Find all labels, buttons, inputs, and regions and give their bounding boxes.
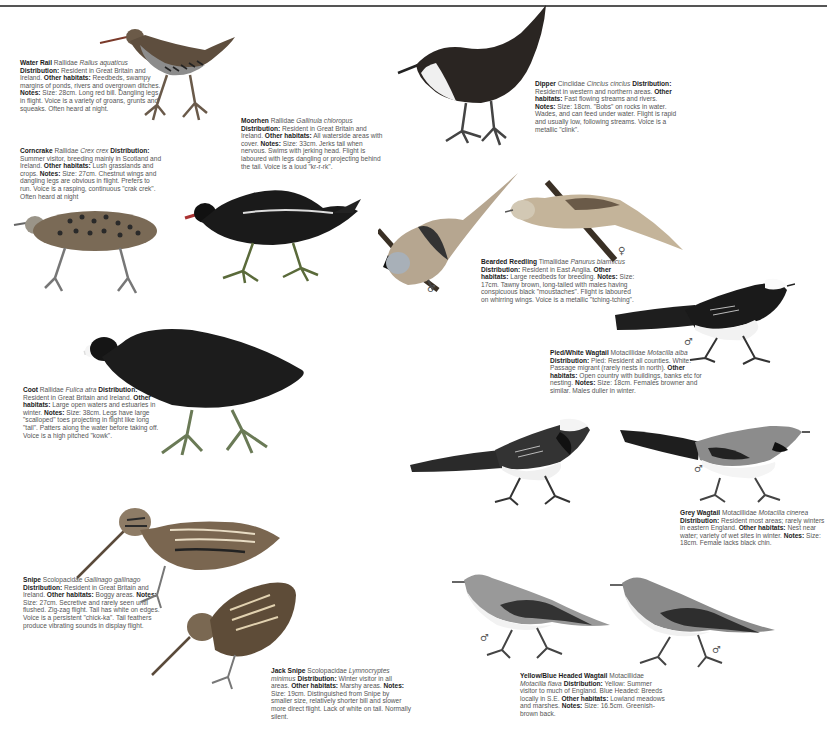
species-name: Coot (23, 386, 38, 393)
female-symbol: ♀ (618, 245, 625, 256)
species-name: Corncrake (20, 147, 53, 154)
entry-corncrake: Corncrake Rallidae Crex crex Distributio… (20, 147, 162, 200)
notes-label: Notes: (20, 89, 41, 96)
latin-name: Motacilla cinerea (759, 509, 808, 516)
corncrake-illustration (10, 203, 160, 303)
latin-name: Cinclus cinclus (587, 80, 631, 87)
latin-name: Motacilla flava (520, 680, 562, 687)
family-name: Scolopacidae (307, 667, 347, 674)
bearded-reedling-female-illustration (505, 180, 685, 270)
dipper-illustration (396, 3, 551, 153)
male-symbol: ♂ (427, 283, 436, 294)
distribution-label: Distribution: (241, 125, 280, 132)
family-name: Motacillidae (609, 672, 644, 679)
other-habitats-label: Other habitats: (44, 74, 91, 81)
species-name: Grey Wagtail (680, 509, 720, 516)
distribution-label: Distribution: (564, 680, 603, 687)
family-name: Rallidae (271, 117, 295, 124)
distribution-text: Resident in western and northern areas. (535, 88, 652, 95)
other-habitats-label: Other habitats: (739, 524, 786, 531)
pied-wagtail-female-illustration (410, 410, 595, 510)
jack-snipe-illustration (150, 575, 300, 690)
blue-headed-wagtail-illustration (610, 575, 775, 670)
other-habitats-label: Other habitats: (44, 162, 91, 169)
species-name: Pied/White Wagtail (550, 349, 609, 356)
male-symbol: ♂ (480, 632, 489, 643)
distribution-label: Distribution: (550, 357, 589, 364)
family-name: Rallidae (54, 147, 78, 154)
distribution-label: Distribution: (632, 80, 671, 87)
other-habitats-text: Fast flowing streams and rivers. (564, 95, 657, 102)
distribution-label: Distribution: (297, 675, 336, 682)
male-symbol: ♂ (712, 644, 721, 655)
entry-moorhen: Moorhen Rallidae Gallinula chloropus Dis… (241, 117, 386, 170)
notes-label: Notes: (562, 702, 583, 709)
family-name: Rallidae (40, 386, 64, 393)
family-name: Motacillidae (722, 509, 757, 516)
water-rail-illustration (95, 15, 240, 135)
species-name: Snipe (23, 576, 41, 583)
grey-wagtail-illustration (620, 420, 810, 505)
other-habitats-label: Other habitats: (561, 695, 608, 702)
distribution-label: Distribution: (680, 517, 719, 524)
species-name: Moorhen (241, 117, 269, 124)
species-name: Yellow/Blue Headed Wagtail (520, 672, 607, 679)
notes-label: Notes: (384, 682, 405, 689)
other-habitats-text: Marshy areas. (340, 682, 382, 689)
distribution-label: Distribution: (20, 67, 59, 74)
male-symbol: ♂ (694, 463, 703, 474)
family-name: Cinclidae (558, 80, 585, 87)
notes-label: Notes: (575, 379, 596, 386)
male-symbol: ♂ (684, 336, 693, 347)
latin-name: Crex crex (80, 147, 108, 154)
entry-grey-wagtail: Grey Wagtail Motacillidae Motacilla cine… (680, 509, 825, 547)
notes-label: Notes: (44, 409, 65, 416)
distribution-label: Distribution: (23, 584, 62, 591)
entry-dipper: Dipper Cinclidae Cinclus cinclus Distrib… (535, 80, 678, 133)
notes-text: Size: 18cm. "Bobs" on rocks in water. Wa… (535, 103, 676, 133)
notes-text: Size: 19cm. Distinguished from Snipe by … (271, 690, 411, 720)
notes-label: Notes: (784, 532, 805, 539)
distribution-label: Distribution: (110, 147, 149, 154)
pied-wagtail-male-illustration (615, 270, 795, 370)
notes-label: Notes: (40, 170, 61, 177)
entry-yellow-blue-headed-wagtail: Yellow/Blue Headed Wagtail Motacillidae … (520, 672, 670, 718)
coot-illustration (82, 325, 312, 460)
latin-name: Gallinula chloropus (296, 117, 352, 124)
yellow-wagtail-illustration (452, 570, 612, 665)
family-name: Rallidae (54, 59, 78, 66)
notes-text: Size: 18cm. Females browner and similar.… (550, 379, 697, 394)
notes-label: Notes: (260, 140, 281, 147)
moorhen-illustration (183, 173, 368, 288)
species-name: Water Rail (20, 59, 52, 66)
other-habitats-label: Other habitats: (265, 132, 312, 139)
